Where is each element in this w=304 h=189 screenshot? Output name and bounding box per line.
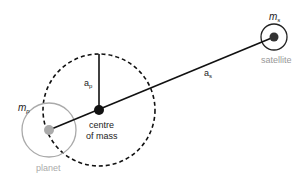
ap-distance-label: ap [84, 78, 93, 89]
as-distance-label: as [204, 68, 212, 79]
planet-label: planet [36, 163, 61, 173]
centre-of-mass-label-line2: of mass [86, 131, 118, 141]
centre-of-mass-dot [94, 105, 104, 115]
centre-of-mass-label-line1: centre [89, 120, 114, 130]
satellite-dot [270, 33, 279, 42]
satellite-mass-label: ms [269, 11, 280, 23]
planet-dot [44, 125, 54, 135]
planet-mass-label: mp [18, 102, 30, 114]
orbit-diagram: mp ms ap as centre of mass planet satell… [0, 0, 304, 189]
planet-satellite-line [49, 37, 274, 130]
satellite-label: satellite [261, 55, 292, 65]
